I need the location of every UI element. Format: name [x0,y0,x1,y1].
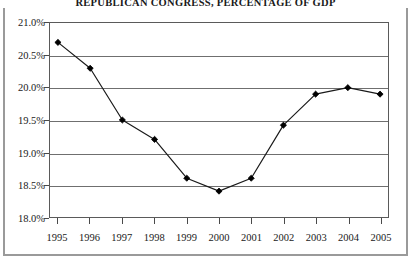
x-axis-tick-label: 2005 [371,232,392,244]
x-axis-tick-label: 2003 [306,232,327,244]
x-axis-tick-marks [49,218,389,225]
x-axis-tick-label: 2000 [209,232,230,244]
plot-area-wrapper [49,22,389,218]
chart-figure: REPUBLICAN CONGRESS, PERCENTAGE OF GDP 1… [0,0,411,258]
x-axis-tick-label: 1996 [79,232,100,244]
x-axis-tick-mark [219,218,220,224]
data-point-marker [248,175,254,181]
x-axis-tick-mark [381,218,382,224]
x-axis-tick-mark [154,218,155,224]
series-line-chart [50,23,388,217]
x-axis-tick-mark [57,218,58,224]
y-axis-tick-label: 20.5% [18,49,45,60]
plot-area [49,22,389,218]
x-axis-tick-mark [349,218,350,224]
data-point-marker [119,117,125,123]
chart-title: REPUBLICAN CONGRESS, PERCENTAGE OF GDP [0,0,411,8]
y-axis-tick-label: 21.0% [18,17,45,28]
x-axis-tick-mark [89,218,90,224]
y-axis-tick-labels: 18.0%18.5%19.0%19.5%20.0%20.5%21.0% [0,22,45,218]
data-point-marker [345,85,351,91]
x-axis-tick-mark [284,218,285,224]
y-axis-tick-label: 18.5% [18,180,45,191]
x-axis-tick-mark [251,218,252,224]
x-axis-tick-labels: 1995199619971998199920002001200220032004… [49,232,389,248]
x-axis-tick-mark [187,218,188,224]
x-axis-tick-label: 1997 [111,232,132,244]
x-axis-tick-label: 1999 [176,232,197,244]
y-axis-tick-label: 18.0% [18,213,45,224]
x-axis-tick-label: 1995 [47,232,68,244]
y-axis-tick-label: 19.0% [18,147,45,158]
y-axis-tick-label: 19.5% [18,115,45,126]
x-axis-tick-mark [316,218,317,224]
y-axis-tick-label: 20.0% [18,82,45,93]
x-axis-tick-label: 2004 [338,232,359,244]
x-axis-tick-label: 2002 [273,232,294,244]
x-axis-tick-mark [122,218,123,224]
x-axis-tick-label: 1998 [144,232,165,244]
series-line [58,42,380,191]
x-axis-tick-label: 2001 [241,232,262,244]
data-point-marker [377,91,383,97]
data-point-marker [216,188,222,194]
